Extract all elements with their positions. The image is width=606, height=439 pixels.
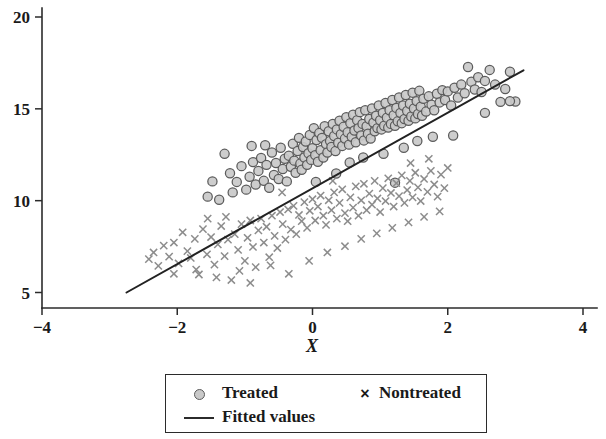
data-point-nontreated: [260, 239, 267, 246]
data-point-treated: [225, 169, 234, 178]
data-point-treated: [480, 76, 489, 85]
data-point-treated: [261, 141, 270, 150]
data-point-nontreated: [228, 276, 235, 283]
y-tick-label: 20: [13, 8, 30, 27]
data-point-treated: [463, 62, 472, 71]
data-point-treated: [242, 185, 251, 194]
data-point-treated: [457, 80, 466, 89]
data-point-treated: [232, 177, 241, 186]
line-sample-icon: [184, 408, 214, 426]
data-point-nontreated: [328, 207, 335, 214]
data-point-nontreated: [417, 197, 424, 204]
y-tick-label: 15: [13, 100, 30, 119]
data-point-nontreated: [374, 195, 381, 202]
data-point-nontreated: [179, 229, 186, 236]
data-point-treated: [208, 177, 217, 186]
legend-label-nontreated: Nontreated: [379, 383, 461, 403]
data-point-nontreated: [409, 194, 416, 201]
data-point-nontreated: [301, 199, 308, 206]
data-point-nontreated: [436, 208, 443, 215]
data-point-nontreated: [324, 249, 331, 256]
data-point-treated: [485, 65, 494, 74]
data-point-nontreated: [267, 262, 274, 269]
data-point-nontreated: [347, 194, 354, 201]
data-point-nontreated: [325, 197, 332, 204]
data-point-nontreated: [166, 253, 173, 260]
legend-label-fitted-values: Fitted values: [222, 407, 315, 427]
data-point-nontreated: [160, 242, 167, 249]
data-point-nontreated: [314, 203, 321, 210]
data-point-nontreated: [155, 262, 162, 269]
data-point-nontreated: [274, 244, 281, 251]
data-point-nontreated: [222, 213, 229, 220]
data-point-nontreated: [271, 232, 278, 239]
data-point-nontreated: [420, 175, 427, 182]
data-point-nontreated: [184, 248, 191, 255]
data-point-nontreated: [407, 159, 414, 166]
data-point-nontreated: [293, 230, 300, 237]
data-point-nontreated: [352, 183, 359, 190]
data-point-nontreated: [437, 171, 444, 178]
data-point-nontreated: [349, 204, 356, 211]
data-point-treated: [460, 89, 469, 98]
data-point-nontreated: [150, 249, 157, 256]
data-point-nontreated: [244, 234, 251, 241]
data-point-nontreated: [218, 222, 225, 229]
data-point-nontreated: [278, 189, 285, 196]
series-treated: [203, 62, 520, 204]
data-point-nontreated: [317, 192, 324, 199]
data-point-nontreated: [414, 184, 421, 191]
x-tick-label: −2: [168, 318, 186, 337]
data-point-nontreated: [401, 199, 408, 206]
data-point-treated: [245, 172, 254, 181]
data-point-treated: [413, 136, 422, 145]
data-point-nontreated: [385, 175, 392, 182]
legend-entry-treated: Treated: [184, 383, 278, 403]
circle-marker-icon: [184, 384, 214, 402]
data-point-nontreated: [358, 197, 365, 204]
data-point-nontreated: [282, 236, 289, 243]
data-point-nontreated: [306, 257, 313, 264]
data-point-nontreated: [255, 227, 262, 234]
data-point-nontreated: [341, 210, 348, 217]
data-point-nontreated: [425, 155, 432, 162]
y-tick-label: 10: [13, 192, 30, 211]
scatter-points-layer: [145, 62, 520, 286]
legend-entry-fitted-values: Fitted values: [184, 407, 315, 427]
data-point-treated: [237, 162, 246, 171]
data-point-nontreated: [276, 208, 283, 215]
data-point-nontreated: [395, 192, 402, 199]
data-point-nontreated: [405, 219, 412, 226]
cross-marker-icon: ×: [356, 384, 374, 402]
data-point-nontreated: [358, 235, 365, 242]
data-point-nontreated: [252, 264, 259, 271]
data-point-nontreated: [336, 199, 343, 206]
data-point-treated: [203, 192, 212, 201]
data-point-nontreated: [199, 226, 206, 233]
data-point-nontreated: [235, 246, 242, 253]
data-point-nontreated: [203, 251, 210, 258]
data-point-nontreated: [339, 186, 346, 193]
data-point-nontreated: [373, 230, 380, 237]
data-point-nontreated: [412, 169, 419, 176]
data-point-treated: [480, 108, 489, 117]
data-point-nontreated: [333, 215, 340, 222]
data-point-nontreated: [341, 243, 348, 250]
fitted-values-line: [127, 70, 524, 292]
data-point-nontreated: [360, 180, 367, 187]
legend-label-treated: Treated: [222, 383, 278, 403]
data-point-nontreated: [434, 193, 441, 200]
data-point-treated: [215, 195, 224, 204]
data-point-nontreated: [344, 218, 351, 225]
data-point-nontreated: [406, 177, 413, 184]
data-point-nontreated: [398, 172, 405, 179]
data-point-nontreated: [444, 164, 451, 171]
x-tick-label: −4: [33, 318, 52, 337]
x-tick-label: 0: [308, 318, 317, 337]
data-point-nontreated: [211, 261, 218, 268]
data-point-nontreated: [424, 188, 431, 195]
data-point-nontreated: [236, 267, 243, 274]
data-point-nontreated: [247, 279, 254, 286]
data-point-treated: [228, 188, 237, 197]
data-point-nontreated: [285, 270, 292, 277]
